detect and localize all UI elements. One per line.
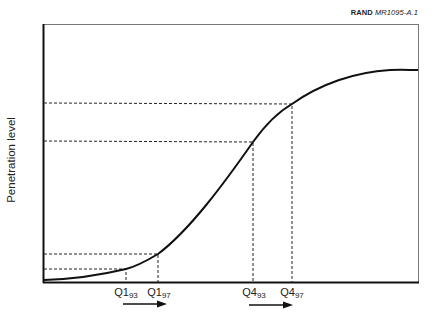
y-axis-label: Penetration level (5, 117, 17, 203)
shift-arrow-q4 (249, 302, 293, 309)
adoption-curve (44, 70, 418, 280)
plot-frame (44, 25, 419, 283)
figure-code-suffix: MR1095-A.1 (375, 8, 418, 17)
shift-arrow-q1 (123, 301, 167, 308)
tick-sub: 93 (129, 291, 138, 300)
tick-main: Q4 (280, 286, 295, 298)
tick-sub: 97 (295, 291, 304, 300)
penetration-chart (0, 0, 437, 324)
tick-main: Q1 (147, 286, 162, 298)
figure-code-prefix: RAND (351, 8, 373, 17)
x-tick-q4-93: Q493 (242, 286, 266, 300)
tick-sub: 93 (257, 291, 266, 300)
tick-sub: 97 (162, 291, 171, 300)
x-tick-q1-97: Q197 (147, 286, 171, 300)
x-tick-q4-97: Q497 (280, 286, 304, 300)
drop-lines (44, 103, 292, 282)
tick-main: Q4 (242, 286, 257, 298)
tick-main: Q1 (114, 286, 129, 298)
figure-code: RAND MR1095-A.1 (351, 8, 418, 17)
x-tick-q1-93: Q193 (114, 286, 138, 300)
